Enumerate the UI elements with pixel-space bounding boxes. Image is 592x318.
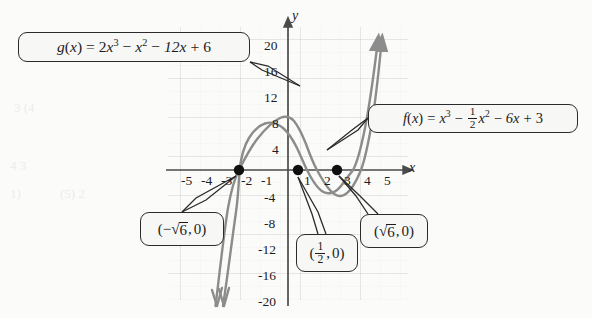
y-tick--8: -8 bbox=[264, 216, 275, 232]
y-axis-label: y bbox=[292, 8, 298, 24]
y-tick-20: 20 bbox=[264, 38, 278, 54]
g-minus-1: − bbox=[123, 39, 132, 55]
callout-root-positive-sqrt6: ( √ 6 , 0 ) bbox=[360, 214, 428, 248]
g-coef-cubic: 2 bbox=[99, 39, 107, 55]
neg-root-comma: , bbox=[188, 222, 192, 237]
neg-root-close-paren: ) bbox=[201, 222, 206, 237]
g-var: x bbox=[70, 39, 77, 55]
x-tick--3: -3 bbox=[221, 173, 232, 189]
f-square-base: x bbox=[478, 111, 484, 126]
y-tick-16: 16 bbox=[264, 64, 278, 80]
half-root-open-paren: ( bbox=[309, 246, 314, 261]
y-tick--4: -4 bbox=[264, 190, 275, 206]
x-tick-5: 5 bbox=[384, 173, 391, 189]
f-constant: 3 bbox=[536, 111, 543, 126]
f-frac-denominator: 2 bbox=[468, 119, 478, 131]
f-cubic-base: x bbox=[439, 111, 445, 126]
y-tick--16: -16 bbox=[258, 268, 276, 284]
neg-root-radical-group: √ 6 bbox=[171, 221, 188, 238]
x-tick-1: 1 bbox=[304, 173, 311, 189]
y-tick--12: -12 bbox=[258, 242, 276, 258]
half-root-comma: , bbox=[326, 246, 330, 261]
x-tick-3: 3 bbox=[344, 173, 351, 189]
half-root-denominator: 2 bbox=[315, 254, 325, 266]
neg-root-minus: − bbox=[163, 222, 171, 237]
g-cubic-base: x bbox=[107, 39, 114, 55]
g-equals: = bbox=[86, 39, 95, 55]
y-tick-8: 8 bbox=[272, 116, 279, 132]
point-sqrt6 bbox=[332, 165, 342, 175]
x-tick--4: -4 bbox=[201, 173, 212, 189]
pos-root-radical-group: √ 6 bbox=[379, 223, 396, 240]
callout-f-function: f ( x ) = x 3 − 1 2 x 2 − 6x + 3 bbox=[368, 104, 578, 133]
f-linear-term: 6x bbox=[506, 111, 520, 126]
f-one-half-fraction: 1 2 bbox=[468, 106, 478, 130]
y-tick-12: 12 bbox=[264, 90, 278, 106]
half-root-close-paren: ) bbox=[340, 246, 345, 261]
pos-root-close-paren: ) bbox=[409, 224, 414, 239]
g-linear-term: 12x bbox=[164, 39, 186, 55]
neg-root-radicand: 6 bbox=[179, 222, 189, 238]
callout-root-negative-sqrt6: ( − √ 6 , 0 ) bbox=[140, 212, 224, 246]
half-root-zero: 0 bbox=[332, 246, 340, 261]
pos-root-radicand: 6 bbox=[386, 224, 396, 240]
neg-root-zero: 0 bbox=[194, 222, 202, 237]
x-tick-2: 2 bbox=[324, 173, 331, 189]
point-half bbox=[293, 165, 303, 175]
g-name: g bbox=[57, 39, 65, 55]
callout-g-function: g ( x ) = 2 x 3 − x 2 − 12x + 6 bbox=[18, 32, 250, 62]
x-tick-4: 4 bbox=[364, 173, 371, 189]
x-tick--5: -5 bbox=[181, 173, 192, 189]
g-plus: + bbox=[190, 39, 199, 55]
pos-root-zero: 0 bbox=[402, 224, 410, 239]
f-plus: + bbox=[524, 111, 532, 126]
figure-container: 3 (4 4 3 1) (5) 2 bbox=[0, 0, 592, 318]
f-minus-2: − bbox=[494, 111, 502, 126]
x-axis-label: x bbox=[409, 160, 415, 176]
g-minus-2: − bbox=[151, 39, 160, 55]
callout-root-one-half: ( 1 2 , 0 ) bbox=[296, 234, 358, 272]
y-tick--20: -20 bbox=[258, 294, 276, 310]
y-tick-4: 4 bbox=[272, 142, 279, 158]
x-tick--1: -1 bbox=[261, 173, 272, 189]
half-root-fraction: 1 2 bbox=[315, 241, 325, 266]
f-equals: = bbox=[427, 111, 435, 126]
f-minus-1: − bbox=[455, 111, 463, 126]
half-root-numerator: 1 bbox=[315, 241, 325, 254]
x-tick--2: -2 bbox=[241, 173, 252, 189]
pos-root-comma: , bbox=[396, 224, 400, 239]
g-square-base: x bbox=[135, 39, 142, 55]
g-constant: 6 bbox=[203, 39, 211, 55]
